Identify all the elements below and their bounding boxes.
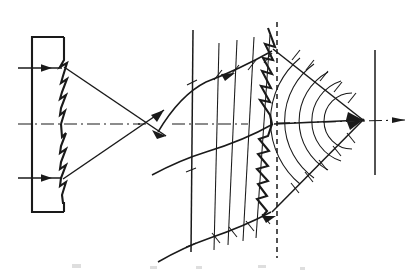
fresnel-lens-figure: Fresnel lens ray and wavefront diagram xyxy=(0,0,410,274)
left-focal-point xyxy=(138,123,140,125)
figure-root: Fresnel lens ray and wavefront diagram xyxy=(0,0,410,274)
right-focal-point xyxy=(361,118,364,121)
